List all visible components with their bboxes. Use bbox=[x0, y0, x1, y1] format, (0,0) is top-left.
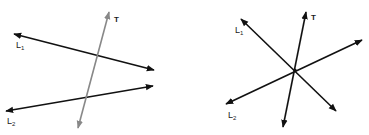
label-l2: L2 bbox=[228, 110, 237, 121]
line-l1 bbox=[14, 34, 154, 70]
line-l2 bbox=[6, 86, 153, 111]
intersection-point bbox=[293, 68, 296, 71]
label-l1: L1 bbox=[235, 25, 244, 36]
label-l2: L2 bbox=[7, 116, 16, 127]
figure-concurrent: L1 L2 T bbox=[226, 12, 362, 127]
figure-transversal: L1 L2 T bbox=[6, 12, 154, 128]
label-t: T bbox=[114, 15, 119, 24]
diagram-canvas: L1 L2 T L1 L2 T bbox=[0, 0, 369, 135]
line-t bbox=[78, 12, 109, 128]
label-t: T bbox=[311, 13, 316, 22]
label-l1: L1 bbox=[16, 40, 25, 51]
